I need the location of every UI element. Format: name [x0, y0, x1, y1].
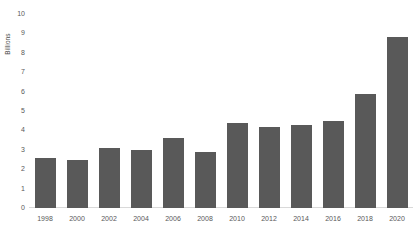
y-axis-tick-label: 0 [3, 204, 25, 212]
bar [323, 121, 344, 208]
bar-slot: 2010 [221, 14, 253, 208]
x-axis-tick-label: 2020 [389, 215, 405, 223]
y-axis-tick-label: 8 [3, 49, 25, 57]
y-axis-tick-label: 3 [3, 146, 25, 154]
bar-slot: 1998 [29, 14, 61, 208]
bar-series: 1998200020022004200620082010201220142016… [29, 14, 413, 208]
x-axis-tick-label: 2014 [293, 215, 309, 223]
x-axis-tick-label: 2016 [325, 215, 341, 223]
bar [35, 158, 56, 208]
bar-slot: 2018 [349, 14, 381, 208]
bar [291, 125, 312, 208]
bar-chart: Billions 012345678910 199820002002200420… [0, 0, 419, 232]
x-axis-tick-label: 2018 [357, 215, 373, 223]
bar [227, 123, 248, 208]
bar [259, 127, 280, 208]
bar [67, 160, 88, 209]
y-axis-tick-label: 2 [3, 165, 25, 173]
y-axis-tick-label: 7 [3, 68, 25, 76]
x-axis-tick-label: 1998 [37, 215, 53, 223]
bar-slot: 2012 [253, 14, 285, 208]
y-axis-title: Billions [2, 14, 14, 74]
bar [355, 94, 376, 208]
bar [387, 37, 408, 208]
y-axis-tick-label: 9 [3, 29, 25, 37]
y-axis-tick-label: 6 [3, 88, 25, 96]
y-axis-tick-label: 10 [3, 10, 25, 18]
bar-slot: 2020 [381, 14, 413, 208]
x-axis-tick-label: 2000 [69, 215, 85, 223]
x-axis-tick-label: 2002 [101, 215, 117, 223]
bar [163, 138, 184, 208]
x-axis-tick-label: 2010 [229, 215, 245, 223]
y-axis-tick-label: 5 [3, 107, 25, 115]
bar-slot: 2004 [125, 14, 157, 208]
x-axis-tick-label: 2012 [261, 215, 277, 223]
bar-slot: 2014 [285, 14, 317, 208]
y-axis-tick-label: 4 [3, 126, 25, 134]
y-axis-tick-label: 1 [3, 185, 25, 193]
plot-area: 012345678910 199820002002200420062008201… [29, 14, 413, 208]
x-axis-tick-label: 2004 [133, 215, 149, 223]
bar [195, 152, 216, 208]
x-axis-tick-label: 2008 [197, 215, 213, 223]
bar-slot: 2002 [93, 14, 125, 208]
bar [131, 150, 152, 208]
x-axis-tick-label: 2006 [165, 215, 181, 223]
bar-slot: 2008 [189, 14, 221, 208]
bar [99, 148, 120, 208]
bar-slot: 2006 [157, 14, 189, 208]
bar-slot: 2016 [317, 14, 349, 208]
bar-slot: 2000 [61, 14, 93, 208]
